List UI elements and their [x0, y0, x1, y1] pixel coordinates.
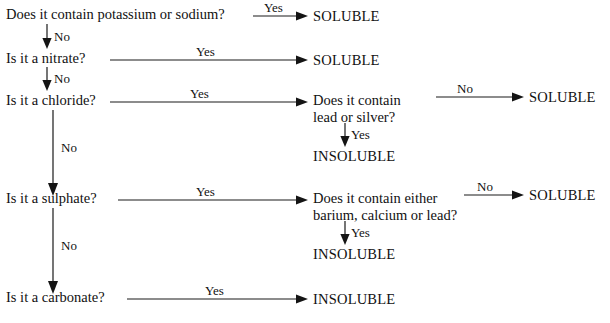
connector-q4-no	[48, 208, 58, 294]
question-lead-silver[interactable]: Does it contain lead or silver?	[313, 92, 401, 126]
edge-label-q2-no: No	[54, 71, 70, 86]
outcome-insoluble-lead-silver-chloride: INSOLUBLE	[313, 148, 395, 165]
question-sulphate-label: Is it a sulphate?	[6, 190, 97, 207]
outcome-insoluble-carbonate: INSOLUBLE	[313, 291, 395, 308]
edge-label-q4b-no: No	[477, 179, 493, 194]
question-barium-calcium-lead[interactable]: Does it contain either barium, calcium o…	[313, 190, 457, 224]
connector-q2-no	[42, 67, 51, 91]
question-carbonate-label: Is it a carbonate?	[6, 289, 105, 306]
outcome-soluble-sulphate: SOLUBLE	[529, 187, 596, 204]
connector-q3-no	[48, 110, 58, 196]
edge-label-q4b-yes: Yes	[351, 225, 370, 240]
question-nitrate[interactable]: Is it a nitrate?	[6, 50, 85, 67]
edge-label-q3-no: No	[61, 140, 77, 155]
edge-label-q3b-yes: Yes	[351, 127, 370, 142]
edge-label-q2-yes: Yes	[196, 44, 215, 59]
connector-q1-no	[42, 24, 51, 49]
edge-label-q3b-no: No	[457, 81, 473, 96]
question-chloride-label: Is it a chloride?	[6, 92, 96, 109]
outcome-soluble-chloride: SOLUBLE	[529, 89, 596, 106]
question-barium-calcium-lead-line2: barium, calcium or lead?	[313, 207, 457, 224]
outcome-soluble-potassium-sodium: SOLUBLE	[313, 8, 380, 25]
question-lead-silver-line2: lead or silver?	[313, 109, 401, 126]
edge-label-q4-no: No	[61, 238, 77, 253]
connector-q3-yes	[110, 97, 308, 106]
flowchart-canvas: Does it contain potassium or sodium? Is …	[0, 0, 610, 323]
connector-q4b-no	[464, 190, 524, 199]
question-lead-silver-line1: Does it contain	[313, 92, 401, 109]
edge-label-q5-yes: Yes	[205, 283, 224, 298]
edge-label-q4-yes: Yes	[196, 184, 215, 199]
question-potassium-sodium[interactable]: Does it contain potassium or sodium?	[6, 6, 225, 23]
outcome-insoluble-barium-calcium-lead-sulphate: INSOLUBLE	[313, 246, 395, 263]
question-sulphate[interactable]: Is it a sulphate?	[6, 190, 97, 207]
question-nitrate-label: Is it a nitrate?	[6, 50, 85, 67]
connector-q3b-yes	[340, 123, 349, 147]
question-barium-calcium-lead-line1: Does it contain either	[313, 190, 457, 207]
flowchart-connectors	[0, 0, 610, 323]
question-chloride[interactable]: Is it a chloride?	[6, 92, 96, 109]
question-potassium-sodium-label: Does it contain potassium or sodium?	[6, 6, 225, 23]
edge-label-q1-no: No	[54, 29, 70, 44]
edge-label-q3-yes: Yes	[190, 86, 209, 101]
connector-q4b-yes	[340, 221, 349, 245]
question-carbonate[interactable]: Is it a carbonate?	[6, 289, 105, 306]
outcome-soluble-nitrate: SOLUBLE	[313, 52, 380, 69]
edge-label-q1-yes: Yes	[264, 0, 283, 15]
connector-q3b-no	[436, 92, 524, 101]
